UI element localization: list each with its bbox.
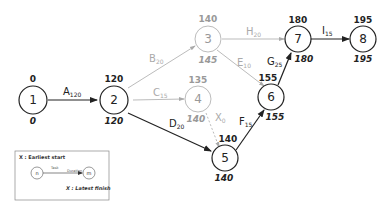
svg-text:1: 1 — [29, 93, 37, 107]
svg-text:5: 5 — [221, 151, 229, 165]
node-8: 8 195 195 — [350, 15, 376, 64]
task-f-label: F15 — [239, 116, 253, 128]
node-2: 2 120 120 — [100, 74, 128, 126]
node-7-earliest-start: 180 — [289, 15, 308, 25]
node-2-earliest-start: 120 — [105, 74, 124, 84]
task-b-label: B20 — [149, 53, 164, 65]
task-a-edge: A120 — [48, 86, 97, 100]
node-5-earliest-start: 140 — [219, 134, 238, 144]
node-2-latest-finish: 120 — [105, 116, 124, 126]
legend: X : Earliest start n m Task Duration X :… — [15, 151, 111, 200]
svg-text:6: 6 — [267, 90, 275, 104]
svg-text:3: 3 — [204, 32, 212, 46]
node-1: 1 0 0 — [19, 74, 47, 126]
task-f-edge: F15 — [236, 110, 264, 150]
node-4-earliest-start: 135 — [189, 75, 208, 85]
node-1-earliest-start: 0 — [30, 74, 36, 84]
svg-text:2: 2 — [110, 93, 118, 107]
task-i-edge: I15 — [310, 25, 349, 39]
network-diagram: A120 B20 C15 D20 X0 E10 F15 H20 G25 — [0, 0, 385, 211]
task-h-edge: H20 — [222, 26, 284, 39]
task-a-label: A120 — [63, 86, 81, 98]
task-g-label: G25 — [267, 56, 283, 68]
legend-latest-finish: X : Latest finish — [65, 185, 111, 191]
node-6-latest-finish: 155 — [266, 112, 285, 122]
task-e-label: E10 — [237, 57, 251, 69]
legend-task-label: Task — [50, 166, 60, 170]
task-e-edge: E10 — [217, 50, 264, 86]
node-8-latest-finish: 195 — [354, 54, 373, 64]
task-d-label: D20 — [169, 118, 185, 130]
node-3-earliest-start: 140 — [199, 14, 218, 24]
node-7-latest-finish: 180 — [295, 54, 314, 64]
task-b-edge: B20 — [128, 46, 195, 88]
node-3: 3 140 145 — [195, 14, 221, 65]
svg-text:n: n — [35, 170, 38, 176]
svg-text:m: m — [87, 170, 92, 176]
node-5: 5 140 140 — [212, 134, 238, 183]
svg-text:4: 4 — [194, 92, 202, 106]
svg-text:8: 8 — [359, 32, 367, 46]
node-6-earliest-start: 155 — [259, 73, 278, 83]
node-8-earliest-start: 195 — [354, 15, 373, 25]
node-4: 4 135 140 — [185, 75, 211, 124]
task-c-label: C15 — [153, 87, 168, 99]
node-5-latest-finish: 140 — [215, 173, 234, 183]
task-i-label: I15 — [322, 25, 333, 37]
task-x-label: X0 — [215, 112, 226, 124]
task-h-label: H20 — [246, 26, 261, 38]
node-1-latest-finish: 0 — [30, 116, 36, 126]
node-3-latest-finish: 145 — [199, 55, 218, 65]
legend-duration-label: Duration — [67, 169, 82, 173]
legend-earliest-start: X : Earliest start — [19, 154, 66, 160]
node-4-latest-finish: 140 — [187, 114, 206, 124]
svg-text:7: 7 — [294, 32, 302, 46]
task-c-edge: C15 — [133, 87, 184, 100]
